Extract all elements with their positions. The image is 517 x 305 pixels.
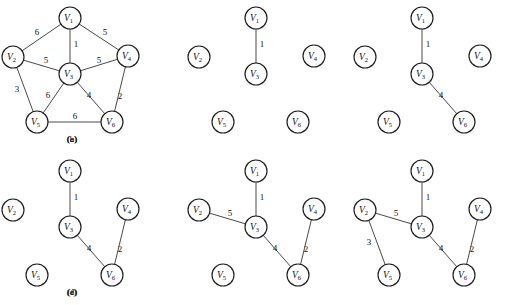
- graph-node-v2[interactable]: V2: [354, 46, 376, 68]
- graph-node-v2[interactable]: V2: [354, 199, 376, 221]
- edge-weight-label: 1: [260, 192, 265, 202]
- graph-edge: [17, 67, 33, 111]
- graph-node-v4[interactable]: V4: [117, 198, 139, 220]
- graph-node-v4[interactable]: V4: [117, 45, 139, 67]
- graph-edge: [24, 60, 60, 71]
- edge-weight-label: 1: [260, 39, 265, 49]
- graph-node-v4[interactable]: V4: [303, 198, 325, 220]
- edge-weight-label: 3: [15, 84, 20, 94]
- graph-node-v1[interactable]: V1: [59, 7, 81, 29]
- edge-weight-label: 4: [87, 243, 92, 253]
- edge-weight-label: 4: [439, 90, 444, 100]
- graph-edge: [301, 220, 312, 265]
- edge-weight-label: 2: [304, 244, 309, 254]
- graph-edge: [22, 24, 61, 51]
- graph-node-v2[interactable]: V2: [188, 199, 210, 221]
- panel-caption: (c): [42, 134, 102, 144]
- graph-node-v6[interactable]: V6: [453, 111, 475, 133]
- graph-node-v3[interactable]: V3: [59, 216, 81, 238]
- edge-weight-label: 4: [273, 243, 278, 253]
- graph-node-v6[interactable]: V6: [453, 264, 475, 286]
- graph-node-v3[interactable]: V3: [411, 63, 433, 85]
- edge-weight-label: 4: [87, 90, 92, 100]
- graph-edge: [79, 24, 119, 50]
- graph-node-v6[interactable]: V6: [101, 264, 123, 286]
- edge-weight-label: 1: [74, 39, 79, 49]
- graph-node-v4[interactable]: V4: [303, 45, 325, 67]
- edge-weight-label: 5: [103, 27, 108, 37]
- graph-edge: [467, 220, 478, 265]
- panel-e: 1542V1V2V3V4V5V6: [186, 153, 358, 305]
- graph-node-v3[interactable]: V3: [59, 63, 81, 85]
- panel-b: 1V1V2V3V4V5V6: [186, 0, 358, 152]
- edge-weight-label: 6: [35, 27, 40, 37]
- edge-weight-label: 5: [394, 208, 399, 218]
- panel-d: 142V1V2V3V4V5V6: [0, 153, 172, 305]
- panel-caption: (f): [42, 287, 102, 297]
- graph-node-v1[interactable]: V1: [411, 7, 433, 29]
- graph-edge: [115, 67, 126, 112]
- edge-weight-label: 2: [470, 244, 475, 254]
- graph-node-v6[interactable]: V6: [287, 111, 309, 133]
- graph-node-v1[interactable]: V1: [245, 160, 267, 182]
- edge-weight-label: 2: [118, 244, 123, 254]
- graph-figure: 6155356426V1V2V3V4V5V6(a)1V1V2V3V4V5V6(b…: [0, 0, 517, 305]
- graph-edge: [369, 220, 385, 264]
- graph-node-v5[interactable]: V5: [26, 111, 48, 133]
- graph-node-v1[interactable]: V1: [59, 160, 81, 182]
- graph-node-v5[interactable]: V5: [212, 111, 234, 133]
- graph-node-v4[interactable]: V4: [469, 198, 491, 220]
- edge-weight-label: 1: [426, 39, 431, 49]
- edge-weight-label: 3: [367, 237, 372, 247]
- edge-weight-label: 1: [74, 192, 79, 202]
- graph-node-v5[interactable]: V5: [378, 264, 400, 286]
- graph-node-v5[interactable]: V5: [26, 264, 48, 286]
- edge-weight-label: 5: [97, 55, 102, 65]
- edge-weight-label: 6: [73, 111, 78, 121]
- graph-node-v1[interactable]: V1: [245, 7, 267, 29]
- edge-weight-label: 4: [439, 243, 444, 253]
- graph-node-v2[interactable]: V2: [188, 46, 210, 68]
- graph-node-v2[interactable]: V2: [2, 46, 24, 68]
- edge-weight-label: 1: [426, 192, 431, 202]
- graph-node-v3[interactable]: V3: [245, 63, 267, 85]
- edge-layer: 1: [256, 29, 264, 63]
- edge-weight-label: 5: [44, 55, 49, 65]
- graph-node-v4[interactable]: V4: [469, 45, 491, 67]
- graph-node-v6[interactable]: V6: [101, 111, 123, 133]
- panel-f: 15342V1V2V3V4V5V6: [352, 153, 517, 305]
- graph-edge: [115, 220, 126, 265]
- graph-node-v5[interactable]: V5: [378, 111, 400, 133]
- graph-node-v3[interactable]: V3: [411, 216, 433, 238]
- edge-weight-label: 2: [118, 91, 123, 101]
- graph-node-v5[interactable]: V5: [212, 264, 234, 286]
- edge-weight-label: 6: [46, 90, 51, 100]
- edge-weight-label: 5: [228, 208, 233, 218]
- panel-a: 6155356426V1V2V3V4V5V6: [0, 0, 172, 152]
- graph-node-v1[interactable]: V1: [411, 160, 433, 182]
- graph-node-v6[interactable]: V6: [287, 264, 309, 286]
- panel-c: 14V1V2V3V4V5V6: [352, 0, 517, 152]
- graph-node-v2[interactable]: V2: [2, 199, 24, 221]
- graph-node-v3[interactable]: V3: [245, 216, 267, 238]
